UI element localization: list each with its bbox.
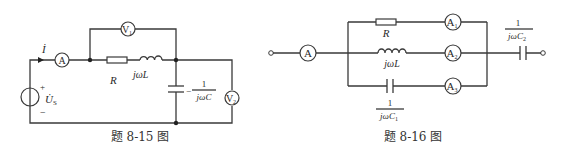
- capacitor-den: jωC: [196, 92, 213, 102]
- current-label: İ: [41, 43, 47, 55]
- node: [174, 58, 178, 62]
- c1-den: jωC1: [379, 111, 398, 122]
- source-plus: +: [40, 82, 45, 92]
- figure-8-15: A V1 V2 İ + − U̇S R jωL − 1 jωC 题 8-15 图: [21, 22, 239, 144]
- inductor-l: [378, 49, 406, 53]
- node: [88, 58, 92, 62]
- current-arrow-icon: [38, 57, 44, 63]
- figure-8-16: A A1 A2 A3 R jωL 1 jωC1 1 jωC2 题 8-16 图: [269, 14, 546, 144]
- inductor-label: jωL: [131, 69, 149, 80]
- c2-den: jωC2: [507, 31, 526, 42]
- source-minus: −: [40, 107, 46, 118]
- terminal-right: [541, 51, 546, 56]
- capacitor-num: 1: [202, 79, 207, 89]
- ammeter-main-label: A: [304, 47, 312, 59]
- circuit-diagrams: A V1 V2 İ + − U̇S R jωL − 1 jωC 题 8-15 图: [0, 0, 569, 150]
- node: [174, 121, 178, 125]
- ammeter-label: A: [58, 55, 66, 66]
- inductor-label: jωL: [382, 58, 400, 69]
- resistor-label: R: [109, 74, 117, 86]
- figure-caption: 题 8-16 图: [384, 130, 443, 144]
- c1-num: 1: [388, 98, 393, 108]
- resistor-r: [376, 19, 396, 25]
- figure-caption: 题 8-15 图: [111, 130, 170, 144]
- c2-num: 1: [516, 18, 521, 28]
- capacitor-sign: −: [186, 86, 191, 96]
- inductor-l: [140, 56, 162, 60]
- resistor-label: R: [382, 27, 390, 39]
- terminal-left: [269, 51, 274, 56]
- source-label: U̇S: [45, 93, 57, 107]
- resistor-r: [107, 57, 127, 63]
